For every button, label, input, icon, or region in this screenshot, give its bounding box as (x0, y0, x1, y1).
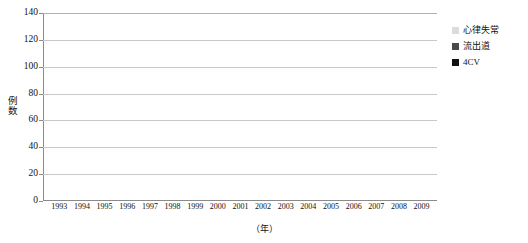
x-axis-tick-label: 2000 (206, 203, 229, 211)
legend-swatch-outflow (452, 43, 459, 50)
y-axis-tick-label: 0 (33, 196, 38, 206)
bar-slot (206, 13, 229, 201)
x-axis-tick-label: 2003 (274, 203, 297, 211)
x-axis-tick-label: 2004 (297, 203, 320, 211)
y-axis-tick-mark (39, 201, 43, 202)
legend-label-outflow: 流出道 (463, 42, 490, 51)
y-axis-tick-label: 140 (24, 8, 38, 18)
x-axis-tick-label: 2006 (342, 203, 365, 211)
legend-item-arrhythmia: 心律失常 (452, 26, 499, 35)
bar-slot (252, 13, 275, 201)
x-axis-tick-label: 1996 (116, 203, 139, 211)
y-axis-tick-label: 20 (29, 169, 39, 179)
y-axis-tick-label: 40 (29, 143, 39, 153)
x-axis-tick-label: 1999 (184, 203, 207, 211)
legend-item-4cv: 4CV (452, 58, 499, 67)
x-axis-tick-label: 2007 (365, 203, 388, 211)
x-axis-tick-label: 2005 (320, 203, 343, 211)
plot-area: 020406080100120140 (43, 13, 437, 201)
legend-item-outflow: 流出道 (452, 42, 499, 51)
legend-label-4cv: 4CV (463, 58, 480, 67)
bar-slot (93, 13, 116, 201)
bar-slot (297, 13, 320, 201)
legend-swatch-arrhythmia (452, 27, 459, 34)
bar-series-group (43, 13, 437, 201)
chart-legend: 心律失常 流出道 4CV (452, 26, 499, 67)
x-axis-tick-label: 1998 (161, 203, 184, 211)
x-axis-ticks: 1993199419951996199719981999200020012002… (43, 203, 437, 211)
legend-label-arrhythmia: 心律失常 (463, 26, 499, 35)
x-axis-title: （年） (0, 222, 528, 235)
bar-slot (116, 13, 139, 201)
bar-slot (48, 13, 71, 201)
chart-figure: 例数 020406080100120140 199319941995199619… (0, 0, 528, 243)
x-axis-tick-label: 1997 (139, 203, 162, 211)
bar-slot (342, 13, 365, 201)
x-axis-tick-label: 1993 (48, 203, 71, 211)
y-axis-tick-label: 60 (29, 116, 39, 126)
bar-slot (161, 13, 184, 201)
x-axis-tick-label: 2001 (229, 203, 252, 211)
x-axis-tick-label: 2009 (410, 203, 433, 211)
bar-slot (184, 13, 207, 201)
bar-slot (71, 13, 94, 201)
bar-slot (410, 13, 433, 201)
bar-slot (229, 13, 252, 201)
bar-slot (365, 13, 388, 201)
y-axis-tick-label: 100 (24, 62, 38, 72)
y-axis-tick-label: 120 (24, 35, 38, 45)
bar-slot (274, 13, 297, 201)
bar-slot (139, 13, 162, 201)
x-axis-tick-label: 2002 (252, 203, 275, 211)
bar-slot (388, 13, 411, 201)
bar-slot (320, 13, 343, 201)
x-axis-tick-label: 2008 (388, 203, 411, 211)
x-axis-tick-label: 1995 (93, 203, 116, 211)
y-axis-title: 例数 (6, 96, 16, 116)
y-axis-tick-label: 80 (29, 89, 39, 99)
legend-swatch-4cv (452, 59, 459, 66)
x-axis-tick-label: 1994 (71, 203, 94, 211)
